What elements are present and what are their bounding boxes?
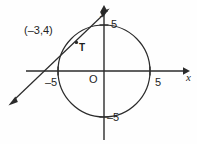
- x-axis-label: x: [186, 72, 191, 83]
- geometry-figure: y x 5 –5 5 –5 O (–3,4) T: [0, 0, 197, 144]
- y-tick-label-negative-five: –5: [107, 112, 119, 123]
- x-tick-label-positive-five: 5: [155, 77, 161, 88]
- figure-canvas: [0, 0, 197, 144]
- tangency-point-dot: [75, 41, 78, 44]
- y-tick-label-positive-five: 5: [111, 19, 117, 30]
- point-coordinate-label: (–3,4): [24, 25, 53, 36]
- y-axis-label: y: [101, 6, 106, 17]
- tangent-point-label: T: [79, 43, 85, 53]
- x-tick-label-negative-five: –5: [45, 77, 57, 88]
- origin-label: O: [89, 74, 98, 85]
